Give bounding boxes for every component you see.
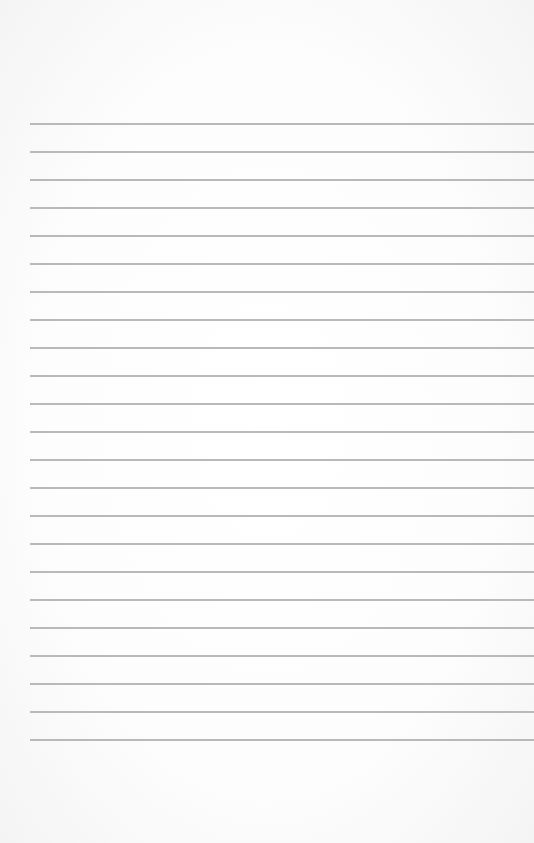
ruled-line xyxy=(30,739,534,741)
ruled-line xyxy=(30,235,534,237)
ruled-line xyxy=(30,515,534,517)
ruled-line xyxy=(30,599,534,601)
ruled-line xyxy=(30,123,534,125)
ruled-line xyxy=(30,571,534,573)
ruled-line xyxy=(30,431,534,433)
ruled-line xyxy=(30,655,534,657)
ruled-line xyxy=(30,543,534,545)
ruled-line xyxy=(30,487,534,489)
ruled-line xyxy=(30,179,534,181)
ruled-line xyxy=(30,627,534,629)
ruled-line xyxy=(30,207,534,209)
ruled-line xyxy=(30,291,534,293)
ruled-line xyxy=(30,711,534,713)
ruled-line xyxy=(30,151,534,153)
ruled-line xyxy=(30,459,534,461)
ruled-line xyxy=(30,683,534,685)
lined-paper-page xyxy=(0,0,534,843)
ruled-line xyxy=(30,319,534,321)
ruled-line xyxy=(30,375,534,377)
ruled-line xyxy=(30,403,534,405)
ruled-line xyxy=(30,263,534,265)
ruled-line xyxy=(30,347,534,349)
